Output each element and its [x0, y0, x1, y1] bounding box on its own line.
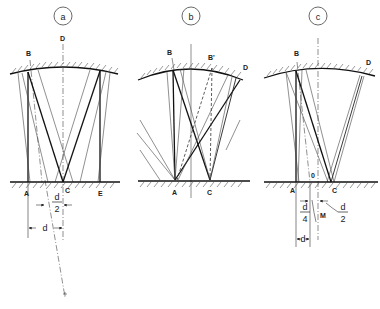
dim-half-numerator: d: [54, 192, 59, 202]
point-b-prime-label: B': [208, 54, 215, 61]
dim-half-denominator: 2: [340, 214, 345, 224]
point-b-label: B: [26, 50, 31, 57]
point-e-label: E: [98, 190, 103, 197]
point-a-label: A: [290, 187, 295, 194]
dashed-ray: [177, 68, 212, 180]
point-o-label: 0: [311, 172, 315, 179]
point-b-label: B: [167, 49, 172, 56]
m-leader: [312, 200, 316, 222]
dim-half-numerator: d: [340, 202, 345, 212]
panel-b-badge: b: [188, 12, 193, 22]
point-d-label: D: [243, 64, 248, 71]
mirror-hatching: [267, 63, 373, 76]
point-a-label: A: [172, 189, 177, 196]
point-c-label: C: [207, 189, 212, 196]
panel-a: a B D: [10, 7, 120, 297]
dim-quarter-numerator: d: [302, 202, 307, 212]
point-c-label: C: [65, 187, 70, 194]
panel-a-badge: a: [60, 12, 65, 22]
point-d-label: D: [366, 59, 371, 66]
dim-full: d: [300, 234, 305, 244]
panel-c: c B D 0: [264, 7, 378, 247]
dim-full: d: [42, 223, 47, 233]
mirror-surface: [10, 67, 118, 74]
panel-b: b B B' D: [137, 7, 250, 198]
point-c-label: C: [332, 187, 337, 194]
optics-diagram: a B D: [0, 0, 380, 309]
focal-point: [64, 293, 66, 295]
ray-bundle: [137, 68, 240, 180]
point-m-label: M: [320, 212, 326, 219]
point-d-label: D: [60, 35, 65, 42]
dim-quarter-denominator: 4: [302, 214, 307, 224]
ray-bundle: [18, 70, 110, 182]
object-plane-hatching: [266, 183, 375, 188]
point-a-label: A: [24, 190, 29, 197]
point-b-label: B: [294, 50, 299, 57]
panel-c-badge: c: [316, 12, 321, 22]
axis-b: [30, 60, 42, 182]
dim-half-denominator: 2: [54, 204, 59, 214]
ray-bundle: [286, 70, 364, 182]
